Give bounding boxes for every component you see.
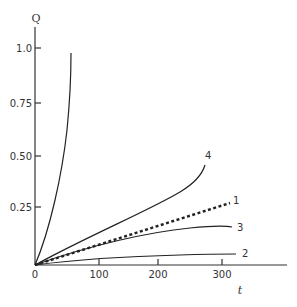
curve-label-4: 4 xyxy=(205,150,211,161)
curve-3 xyxy=(35,226,232,265)
chart-canvas: 1.0 0.75 0.50 0.25 0 100 200 300 Q t 4 1… xyxy=(0,0,297,307)
x-axis-title: t xyxy=(238,284,243,297)
x-tick-label: 100 xyxy=(89,269,108,280)
y-tick-label: 0.25 xyxy=(10,202,32,213)
curve-4 xyxy=(35,165,205,265)
y-tick-label: 1.0 xyxy=(16,43,32,54)
y-axis-title: Q xyxy=(31,12,40,25)
curve-label-3: 3 xyxy=(237,222,243,233)
curve-label-2: 2 xyxy=(242,248,248,259)
curve-2 xyxy=(35,254,236,265)
x-tick-label: 200 xyxy=(148,269,167,280)
x-tick-label: 300 xyxy=(212,269,231,280)
curve-unlabeled xyxy=(35,53,71,265)
curve-label-1: 1 xyxy=(233,195,239,206)
y-tick-label: 0.50 xyxy=(10,151,32,162)
y-tick-label: 0.75 xyxy=(10,98,32,109)
origin-label: 0 xyxy=(32,269,38,280)
